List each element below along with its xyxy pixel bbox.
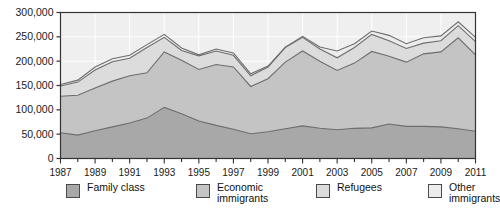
x-axis-labels: 1987198919911993199519971999200120032005… bbox=[49, 167, 486, 178]
x-tick-label: 2005 bbox=[361, 167, 384, 178]
x-tick-label: 2001 bbox=[291, 167, 314, 178]
y-axis-labels: 050,000100,000150,000200,000250,000300,0… bbox=[16, 6, 54, 164]
legend-swatch-family-class bbox=[66, 184, 80, 198]
y-tick-label: 150,000 bbox=[16, 79, 54, 91]
y-tick-label: 200,000 bbox=[16, 55, 54, 67]
x-tick-label: 2007 bbox=[395, 167, 418, 178]
legend-item-other-immigrants[interactable]: Other immigrants bbox=[428, 182, 500, 203]
x-tick-label: 1997 bbox=[222, 167, 245, 178]
y-tick-label: 250,000 bbox=[16, 30, 54, 42]
plot-canvas: 050,000100,000150,000200,000250,000300,0… bbox=[0, 0, 497, 180]
legend-swatch-refugees bbox=[316, 184, 330, 198]
legend-swatch-economic-immigrants bbox=[196, 184, 210, 198]
x-tick-label: 1995 bbox=[188, 167, 211, 178]
x-tick-label: 1999 bbox=[257, 167, 280, 178]
legend-label-family-class: Family class bbox=[87, 182, 145, 193]
legend-label-economic-immigrants: Economic immigrants bbox=[217, 182, 268, 203]
x-tick-label: 2011 bbox=[465, 167, 487, 178]
x-tick-label: 1993 bbox=[153, 167, 176, 178]
x-tick-label: 2009 bbox=[430, 167, 453, 178]
x-tick-label: 1991 bbox=[119, 167, 142, 178]
x-tick-label: 1987 bbox=[49, 167, 72, 178]
legend-item-refugees[interactable]: Refugees bbox=[316, 182, 382, 198]
x-axis-ticks bbox=[61, 159, 476, 164]
chart-legend: Family classEconomic immigrantsRefugeesO… bbox=[0, 180, 497, 213]
y-tick-label: 0 bbox=[48, 152, 54, 164]
legend-item-economic-immigrants[interactable]: Economic immigrants bbox=[196, 182, 268, 203]
y-tick-label: 300,000 bbox=[16, 6, 54, 18]
x-tick-label: 1989 bbox=[84, 167, 107, 178]
y-tick-label: 100,000 bbox=[16, 103, 54, 115]
legend-label-other-immigrants: Other immigrants bbox=[449, 182, 500, 203]
legend-swatch-other-immigrants bbox=[428, 184, 442, 198]
y-tick-label: 50,000 bbox=[21, 128, 53, 140]
x-tick-label: 2003 bbox=[326, 167, 349, 178]
legend-item-family-class[interactable]: Family class bbox=[66, 182, 145, 198]
legend-label-refugees: Refugees bbox=[337, 182, 382, 193]
